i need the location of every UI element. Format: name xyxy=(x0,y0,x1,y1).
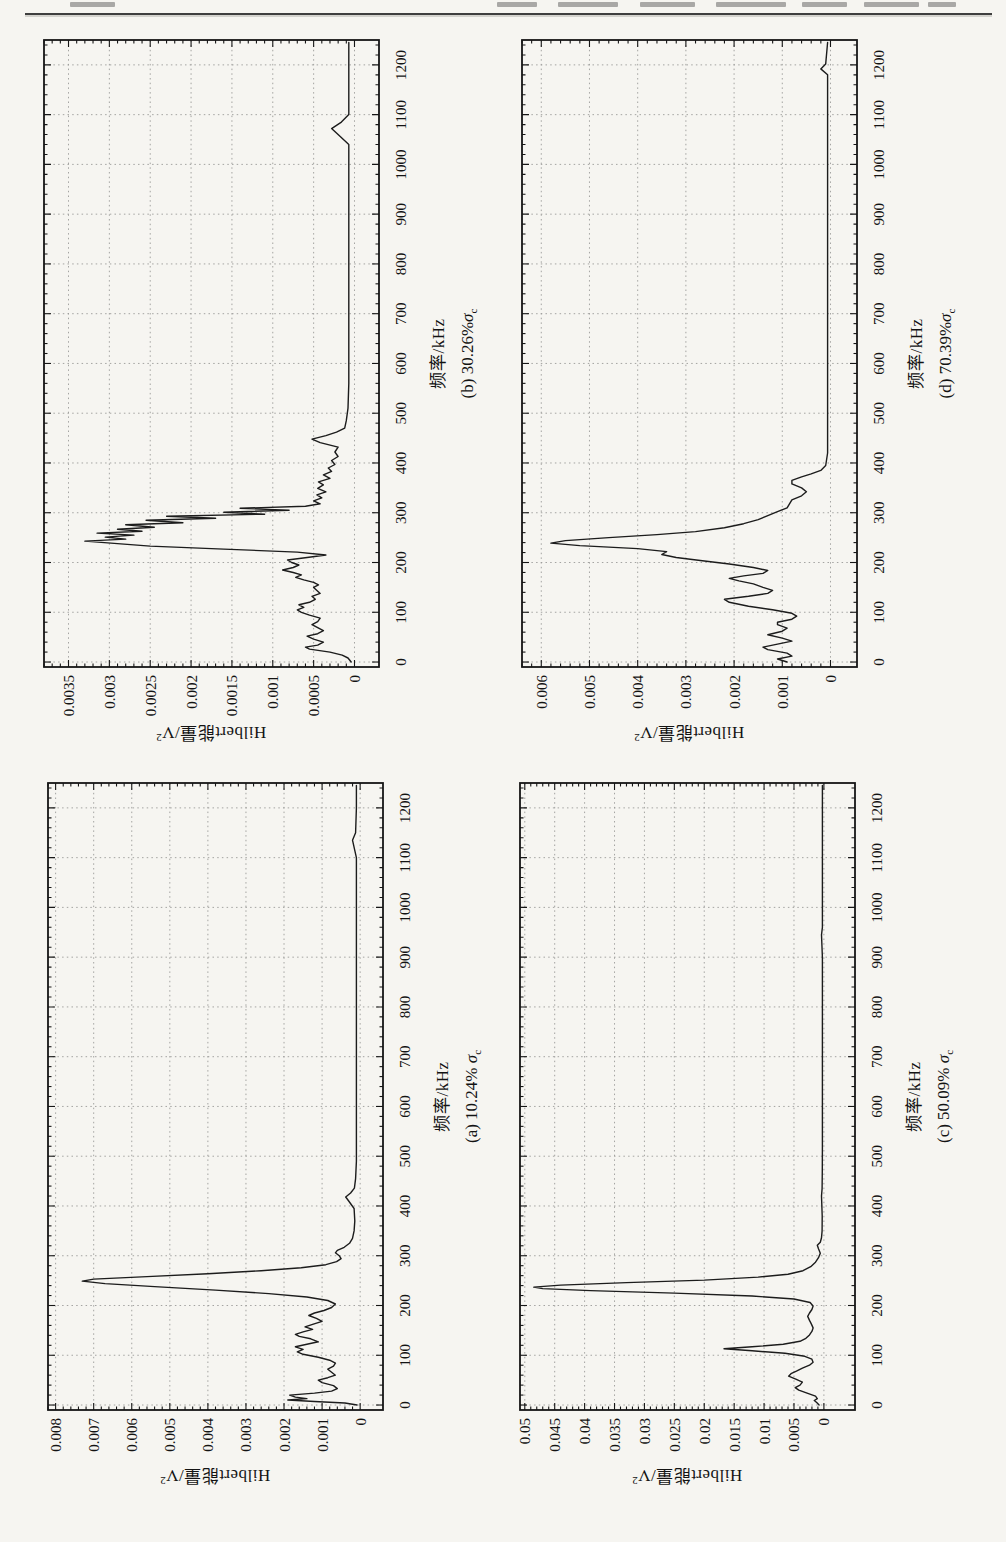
svg-text:1200: 1200 xyxy=(871,50,887,80)
y-axis-label: Hilbert能量/V2 xyxy=(115,1468,315,1490)
svg-text:500: 500 xyxy=(397,1145,413,1168)
svg-text:800: 800 xyxy=(397,996,413,1019)
svg-text:0.008: 0.008 xyxy=(48,1418,64,1452)
svg-text:1100: 1100 xyxy=(393,100,409,129)
svg-text:0.005: 0.005 xyxy=(786,1418,802,1452)
svg-text:400: 400 xyxy=(393,452,409,475)
svg-text:0.005: 0.005 xyxy=(582,675,598,709)
svg-text:0.002: 0.002 xyxy=(277,1418,293,1452)
svg-text:1100: 1100 xyxy=(871,100,887,129)
header-text-remnant xyxy=(640,2,695,7)
svg-text:0.001: 0.001 xyxy=(265,675,281,709)
svg-text:0: 0 xyxy=(347,675,363,683)
svg-text:900: 900 xyxy=(393,203,409,226)
svg-text:0: 0 xyxy=(869,1401,885,1409)
svg-text:1100: 1100 xyxy=(397,843,413,872)
svg-text:300: 300 xyxy=(869,1244,885,1267)
svg-text:0.015: 0.015 xyxy=(727,1418,743,1452)
svg-text:800: 800 xyxy=(869,996,885,1019)
svg-text:1200: 1200 xyxy=(397,793,413,823)
svg-text:400: 400 xyxy=(871,452,887,475)
y-axis-label: Hilbert能量/V2 xyxy=(589,725,789,747)
svg-text:0.035: 0.035 xyxy=(607,1418,623,1452)
svg-text:0.003: 0.003 xyxy=(238,1418,254,1452)
svg-text:900: 900 xyxy=(869,946,885,969)
svg-text:0.025: 0.025 xyxy=(667,1418,683,1452)
y-axis-label: Hilbert能量/V2 xyxy=(587,1468,787,1490)
y-axis-label: Hilbert能量/V2 xyxy=(111,725,311,747)
chart-a: 0100200300400500600700800900100011001200… xyxy=(44,779,497,1513)
svg-text:300: 300 xyxy=(871,501,887,524)
svg-text:0: 0 xyxy=(353,1418,369,1426)
svg-text:900: 900 xyxy=(397,946,413,969)
svg-text:0.004: 0.004 xyxy=(630,675,646,709)
svg-text:0.03: 0.03 xyxy=(637,1418,653,1444)
svg-text:500: 500 xyxy=(393,402,409,425)
svg-text:0.005: 0.005 xyxy=(162,1418,178,1452)
svg-text:1200: 1200 xyxy=(393,50,409,80)
header-text-remnant xyxy=(802,2,847,7)
svg-text:100: 100 xyxy=(871,601,887,624)
chart-b-caption: (b) 30.26%σc xyxy=(458,40,479,667)
svg-text:1000: 1000 xyxy=(869,892,885,922)
svg-text:600: 600 xyxy=(871,352,887,375)
svg-text:1000: 1000 xyxy=(871,149,887,179)
svg-text:200: 200 xyxy=(871,551,887,574)
svg-text:600: 600 xyxy=(397,1095,413,1118)
chart-d-caption: (d) 70.39%σc xyxy=(936,40,957,667)
svg-text:800: 800 xyxy=(871,253,887,276)
svg-text:0.002: 0.002 xyxy=(727,675,743,709)
header-text-remnant xyxy=(70,2,115,7)
svg-text:200: 200 xyxy=(869,1294,885,1317)
svg-text:0.006: 0.006 xyxy=(124,1418,140,1452)
chart-a-caption: (a) 10.24% σc xyxy=(462,783,483,1410)
svg-text:0.007: 0.007 xyxy=(86,1418,102,1452)
svg-text:0.045: 0.045 xyxy=(547,1418,563,1452)
svg-text:0.003: 0.003 xyxy=(102,675,118,709)
svg-text:500: 500 xyxy=(871,402,887,425)
chart-c: 0100200300400500600700800900100011001200… xyxy=(516,779,969,1513)
chart-c-slot: 0100200300400500600700800900100011001200… xyxy=(516,779,969,1513)
header-text-remnant xyxy=(558,2,618,7)
svg-text:600: 600 xyxy=(869,1095,885,1118)
chart-b-slot: 0100200300400500600700800900100011001200… xyxy=(40,36,493,770)
svg-text:600: 600 xyxy=(393,352,409,375)
svg-text:0.002: 0.002 xyxy=(184,675,200,709)
svg-text:0.04: 0.04 xyxy=(577,1418,593,1445)
svg-text:1000: 1000 xyxy=(397,892,413,922)
svg-text:0.001: 0.001 xyxy=(775,675,791,709)
svg-text:300: 300 xyxy=(397,1244,413,1267)
svg-text:700: 700 xyxy=(397,1045,413,1068)
svg-text:0.05: 0.05 xyxy=(517,1418,533,1444)
svg-text:200: 200 xyxy=(397,1294,413,1317)
header-text-remnant xyxy=(497,2,537,7)
svg-text:0.0025: 0.0025 xyxy=(143,675,159,716)
x-axis-label: 频率/kHz xyxy=(900,783,925,1410)
svg-text:0: 0 xyxy=(816,1418,832,1426)
chart-c-caption: (c) 50.09% σc xyxy=(934,783,955,1410)
header-text-remnant xyxy=(928,2,956,7)
svg-text:0: 0 xyxy=(823,675,839,683)
svg-text:1100: 1100 xyxy=(869,843,885,872)
svg-text:0: 0 xyxy=(397,1401,413,1409)
header-text-remnant xyxy=(864,2,919,7)
svg-text:200: 200 xyxy=(393,551,409,574)
svg-text:700: 700 xyxy=(393,302,409,325)
svg-text:0.004: 0.004 xyxy=(200,1418,216,1452)
svg-text:0.02: 0.02 xyxy=(697,1418,713,1444)
svg-text:700: 700 xyxy=(869,1045,885,1068)
chart-a-slot: 0100200300400500600700800900100011001200… xyxy=(44,779,497,1513)
svg-text:0.01: 0.01 xyxy=(757,1418,773,1444)
svg-text:500: 500 xyxy=(869,1145,885,1168)
svg-text:0.0015: 0.0015 xyxy=(224,675,240,716)
svg-text:0.001: 0.001 xyxy=(315,1418,331,1452)
svg-text:800: 800 xyxy=(393,253,409,276)
chart-d-slot: 0100200300400500600700800900100011001200… xyxy=(518,36,971,770)
header-text-remnant xyxy=(716,2,786,7)
svg-text:400: 400 xyxy=(869,1195,885,1218)
x-axis-label: 频率/kHz xyxy=(424,40,449,667)
chart-d: 0100200300400500600700800900100011001200… xyxy=(518,36,971,770)
svg-text:0.0035: 0.0035 xyxy=(61,675,77,716)
svg-text:100: 100 xyxy=(869,1344,885,1367)
svg-text:900: 900 xyxy=(871,203,887,226)
